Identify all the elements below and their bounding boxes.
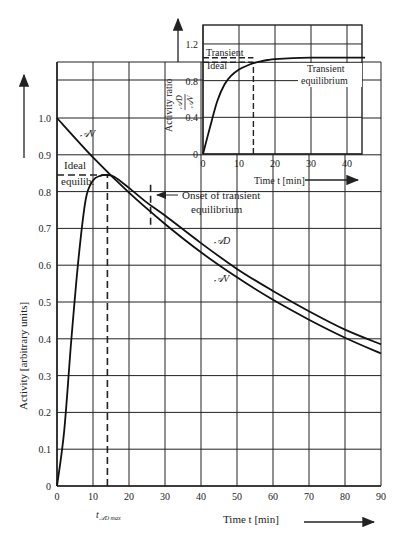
main-tick-labels: 010203040506070809000.10.20.30.40.50.60.… bbox=[39, 113, 387, 502]
tmax-label: t𝒜D max bbox=[96, 509, 121, 521]
inset-y-axis-label: Activity ratio bbox=[163, 78, 174, 132]
main-x-axis-label: Time t [min] bbox=[223, 513, 279, 525]
main-y-tick: 0.2 bbox=[39, 407, 52, 418]
chart-canvas: 010203040506070809000.10.20.30.40.50.60.… bbox=[0, 0, 401, 542]
series-ad-label: 𝒜D bbox=[214, 235, 231, 246]
svg-text:0.8: 0.8 bbox=[186, 76, 199, 87]
main-y-tick: 0.9 bbox=[39, 150, 52, 161]
inset-te-label-2: equilibrium bbox=[301, 75, 348, 86]
svg-text:40: 40 bbox=[342, 158, 352, 169]
main-x-tick: 70 bbox=[304, 491, 314, 502]
onset-label-line1: Onset of transient bbox=[182, 189, 260, 201]
main-y-tick: 0.6 bbox=[39, 260, 52, 271]
series-ad-line bbox=[57, 175, 381, 486]
equilib-label: equilib. bbox=[61, 175, 95, 187]
inset-transient-label: Transient bbox=[206, 47, 244, 58]
onset-label-line2: equilibrium bbox=[191, 203, 243, 215]
main-y-tick: 0.3 bbox=[39, 371, 52, 382]
svg-text:𝒜D: 𝒜D bbox=[175, 95, 184, 109]
ideal-label: Ideal bbox=[64, 159, 86, 171]
svg-text:𝒜V: 𝒜V bbox=[186, 94, 195, 108]
main-y-tick: 0.5 bbox=[39, 297, 52, 308]
inset-te-label-1: Transient bbox=[307, 63, 345, 74]
main-x-tick: 0 bbox=[55, 491, 60, 502]
svg-text:10: 10 bbox=[234, 158, 244, 169]
inset-ratio-fraction: 𝒜D 𝒜V bbox=[175, 94, 195, 110]
svg-text:1.2: 1.2 bbox=[186, 39, 199, 50]
main-reference-lines bbox=[57, 175, 151, 486]
main-x-tick: 90 bbox=[376, 491, 386, 502]
main-y-tick: 1.0 bbox=[39, 113, 52, 124]
main-x-tick: 50 bbox=[232, 491, 242, 502]
inset-x-axis-label: Time t [min] bbox=[254, 175, 305, 186]
main-x-tick: 60 bbox=[268, 491, 278, 502]
main-x-tick: 10 bbox=[88, 491, 98, 502]
main-y-axis-label: Activity [arbitrary units] bbox=[17, 302, 29, 410]
series-av-label-bottom: 𝒜V bbox=[214, 273, 231, 284]
svg-text:0: 0 bbox=[193, 149, 198, 160]
svg-text:0.4: 0.4 bbox=[186, 112, 199, 123]
main-y-tick: 0 bbox=[46, 481, 51, 492]
main-x-tick: 80 bbox=[340, 491, 350, 502]
main-x-tick: 40 bbox=[196, 491, 206, 502]
main-y-tick: 0.7 bbox=[39, 223, 52, 234]
main-x-tick: 30 bbox=[160, 491, 170, 502]
main-y-tick: 0.8 bbox=[39, 187, 52, 198]
svg-text:20: 20 bbox=[270, 158, 280, 169]
main-x-tick: 20 bbox=[124, 491, 134, 502]
series-av-label-top: 𝒜V bbox=[80, 128, 97, 139]
main-y-tick: 0.1 bbox=[39, 444, 52, 455]
inset-ideal-label: Ideal bbox=[207, 60, 227, 71]
main-y-tick: 0.4 bbox=[39, 334, 52, 345]
svg-text:30: 30 bbox=[306, 158, 316, 169]
svg-text:0: 0 bbox=[201, 158, 206, 169]
